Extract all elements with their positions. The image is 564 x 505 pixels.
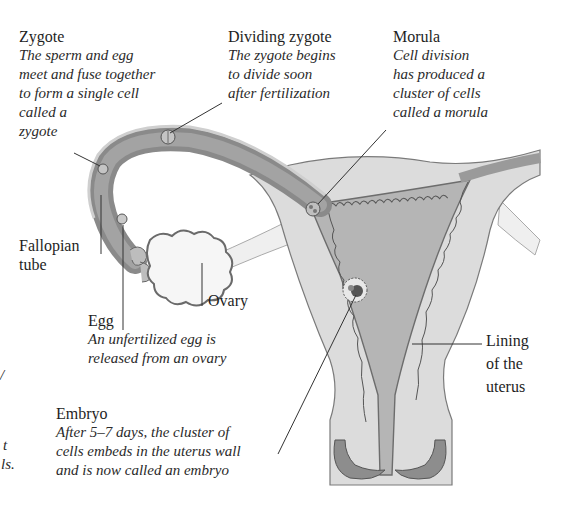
embryo-cell xyxy=(343,278,367,302)
label-ovary: Ovary xyxy=(208,291,248,310)
label-zygote: Zygote The sperm and egg meet and fuse t… xyxy=(19,27,155,141)
morula-title: Morula xyxy=(393,27,488,46)
label-egg: Egg An unfertilized egg is released from… xyxy=(88,311,226,368)
lining-title: Lining of the uterus xyxy=(486,329,529,398)
cropped-text-fragment-3: ls. xyxy=(1,455,15,474)
ovary-title: Ovary xyxy=(208,291,248,310)
zygote-title: Zygote xyxy=(19,27,155,46)
fallopian-tube-title: Fallopian tube xyxy=(19,236,79,274)
dividing-zygote-title: Dividing zygote xyxy=(228,27,335,46)
dividing-zygote-description: The zygote begins to divide soon after f… xyxy=(228,46,335,103)
label-dividing-zygote: Dividing zygote The zygote begins to div… xyxy=(228,27,335,103)
egg-description: An unfertilized egg is released from an … xyxy=(88,330,226,368)
egg-cell xyxy=(117,214,127,224)
label-morula: Morula Cell division has produced a clus… xyxy=(393,27,488,122)
label-lining-of-uterus: Lining of the uterus xyxy=(486,329,529,398)
zygote-description: The sperm and egg meet and fuse together… xyxy=(19,46,155,141)
cropped-text-fragment-2: t xyxy=(3,436,7,455)
morula-cell xyxy=(306,202,320,216)
cropped-text-fragment-1: / xyxy=(0,366,4,385)
label-fallopian-tube: Fallopian tube xyxy=(19,236,79,274)
egg-title: Egg xyxy=(88,311,226,330)
label-embryo: Embryo After 5–7 days, the cluster of ce… xyxy=(56,404,241,480)
embryo-description: After 5–7 days, the cluster of cells emb… xyxy=(56,423,241,480)
dividing-zygote-cell xyxy=(161,130,175,144)
right-ligament xyxy=(498,200,540,255)
morula-description: Cell division has produced a cluster of … xyxy=(393,46,488,122)
embryo-title: Embryo xyxy=(56,404,241,423)
